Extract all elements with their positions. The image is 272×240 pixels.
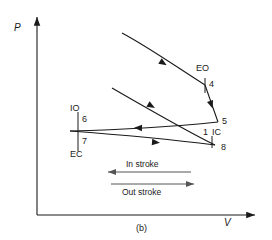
label-io: IO [70, 104, 80, 113]
arrowhead-compression [146, 101, 156, 111]
figure-container: P V (b) EO 4 5 1 IC 8 IO 6 7 EC In strok… [0, 0, 272, 240]
arrowhead-blowdown [207, 100, 216, 110]
arrowhead-induction-stroke [152, 139, 161, 146]
figure-caption: (b) [136, 224, 147, 233]
label-point-5: 5 [222, 117, 227, 126]
label-ec: EC [70, 150, 83, 159]
stroke-arrow-group [108, 172, 194, 184]
x-axis-label: V [224, 218, 231, 228]
expansion-curve [122, 33, 205, 85]
valve-tick-group [78, 78, 212, 151]
label-eo: EO [196, 64, 209, 73]
arrowhead-exhaust-stroke [134, 125, 142, 132]
label-point-4: 4 [209, 80, 214, 89]
exhaust-stroke-curve [70, 122, 218, 131]
label-point-6: 6 [82, 115, 87, 124]
label-point-1: 1 [203, 128, 208, 137]
pv-diagram [0, 0, 272, 240]
curve-group [70, 33, 218, 145]
label-ic: IC [212, 128, 221, 137]
label-out-stroke: Out stroke [122, 188, 161, 197]
label-in-stroke: In stroke [126, 160, 159, 169]
label-point-7: 7 [82, 137, 87, 146]
induction-stroke-curve [70, 131, 215, 145]
y-axis-label: P [14, 23, 21, 33]
compression-curve [112, 88, 215, 145]
label-point-8: 8 [221, 143, 226, 152]
